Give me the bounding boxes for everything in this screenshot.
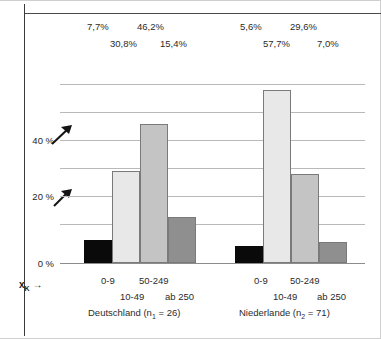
value-label-de-ab-250: 15,4% xyxy=(160,39,187,49)
group-title-nl-prefix: Niederlande (n xyxy=(239,307,301,318)
y-tick-label-0: 0 % xyxy=(38,259,54,269)
group-title-nl-suffix: = 71) xyxy=(305,307,330,318)
bar-nl-ab-250 xyxy=(319,242,347,263)
figure-rule-top xyxy=(25,13,381,14)
group-title-de-suffix: = 26) xyxy=(156,307,181,318)
value-labels: 7,7% 46,2% 30,8% 15,4% 5,6% 29,6% 57,7% … xyxy=(25,18,381,60)
bar-nl-50-249 xyxy=(291,174,319,263)
chart-figure: 7,7% 46,2% 30,8% 15,4% 5,6% 29,6% 57,7% … xyxy=(0,0,381,339)
value-label-de-50-249: 46,2% xyxy=(137,22,164,32)
gridline-10 xyxy=(60,224,365,225)
bar-de-ab-250 xyxy=(168,217,196,263)
gridline-40 xyxy=(60,140,365,141)
category-label-nl-0-9: 0-9 xyxy=(254,276,268,286)
value-label-nl-ab-250: 7,0% xyxy=(317,39,339,49)
plot-area xyxy=(60,84,365,264)
category-label-nl-10-49: 10-49 xyxy=(273,292,297,302)
gridline-30 xyxy=(60,168,365,169)
category-label-de-ab-250: ab 250 xyxy=(165,292,194,302)
group-title-de-prefix: Deutschland (n xyxy=(88,307,152,318)
gridline-20 xyxy=(60,196,365,197)
bar-de-0-9 xyxy=(84,240,112,263)
y-tick-label-20: 20 % xyxy=(32,192,54,202)
category-label-de-50-249: 50-249 xyxy=(139,276,169,286)
bar-nl-10-49 xyxy=(263,90,291,263)
x-axis-baseline xyxy=(60,263,365,264)
value-label-nl-10-49: 57,7% xyxy=(263,39,290,49)
group-title-nl: Niederlande (n2 = 71) xyxy=(239,308,330,320)
group-title-de: Deutschland (n1 = 26) xyxy=(88,308,180,320)
category-label-nl-ab-250: ab 250 xyxy=(317,292,346,302)
bar-de-10-49 xyxy=(112,171,140,263)
category-labels: 0-9 50-249 10-49 ab 250 Deutschland (n1 … xyxy=(25,272,381,332)
value-label-nl-50-249: 29,6% xyxy=(290,22,317,32)
category-label-de-0-9: 0-9 xyxy=(101,276,115,286)
category-label-nl-50-249: 50-249 xyxy=(290,276,320,286)
figure-border-top xyxy=(0,0,381,1)
bar-de-50-249 xyxy=(140,124,168,263)
value-label-de-10-49: 30,8% xyxy=(110,39,137,49)
gridline-50 xyxy=(60,112,365,113)
bar-nl-0-9 xyxy=(235,246,263,263)
category-label-de-10-49: 10-49 xyxy=(120,292,144,302)
gridline-60 xyxy=(60,84,365,85)
value-label-de-0-9: 7,7% xyxy=(87,22,109,32)
value-label-nl-0-9: 5,6% xyxy=(240,22,262,32)
